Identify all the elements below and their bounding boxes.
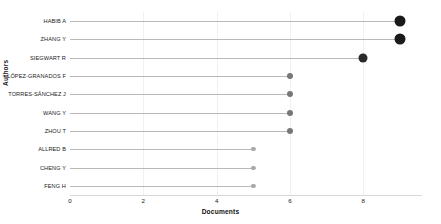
- stem-line: [70, 76, 290, 77]
- data-point[interactable]: [251, 147, 255, 151]
- x-tick-label: 2: [142, 197, 145, 204]
- x-axis-title: Documents: [0, 208, 441, 215]
- category-label: FENG H: [44, 183, 66, 189]
- category-label: TORRES-SÁNCHEZ J: [8, 91, 66, 97]
- stem-line: [70, 39, 400, 40]
- category-labels: HABIB AZHANG YSIEGWART RLÓPEZ-GRANADOS F…: [0, 12, 66, 195]
- data-point[interactable]: [395, 34, 406, 45]
- category-label: SIEGWART R: [30, 55, 66, 61]
- category-label: WANG Y: [43, 110, 66, 116]
- stem-line: [70, 58, 363, 59]
- category-label: ZHANG Y: [41, 36, 66, 42]
- x-tick-label: 6: [288, 197, 291, 204]
- stem-line: [70, 94, 290, 95]
- category-label: LÓPEZ-GRANADOS F: [7, 73, 66, 79]
- stem-line: [70, 149, 253, 150]
- stem-line: [70, 186, 253, 187]
- plot-area: [70, 12, 422, 195]
- data-point[interactable]: [287, 91, 293, 97]
- stem-line: [70, 168, 253, 169]
- data-point[interactable]: [359, 53, 368, 62]
- x-axis-line: [70, 195, 422, 196]
- data-point[interactable]: [395, 16, 406, 27]
- data-point[interactable]: [287, 73, 293, 79]
- data-point[interactable]: [251, 184, 255, 188]
- stem-line: [70, 131, 290, 132]
- category-label: HABIB A: [44, 18, 66, 24]
- category-label: CHENG Y: [40, 165, 66, 171]
- category-label: ALLRED B: [38, 146, 66, 152]
- data-point[interactable]: [287, 110, 293, 116]
- x-tick-label: 4: [215, 197, 218, 204]
- data-point[interactable]: [287, 128, 293, 134]
- x-tick-label: 8: [362, 197, 365, 204]
- stem-line: [70, 113, 290, 114]
- x-tick-label: 0: [68, 197, 71, 204]
- stem-line: [70, 21, 400, 22]
- category-label: ZHOU T: [45, 128, 66, 134]
- lollipop-chart: Authors HABIB AZHANG YSIEGWART RLÓPEZ-GR…: [0, 0, 441, 224]
- data-point[interactable]: [251, 165, 255, 169]
